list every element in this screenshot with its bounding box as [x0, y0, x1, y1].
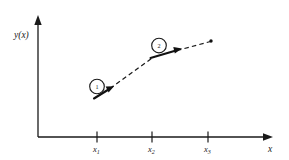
x-axis-label: x [267, 144, 273, 154]
step-marker-2: 2 [152, 38, 167, 53]
dashed-segment-2 [177, 42, 211, 51]
step-marker-1: 1 [90, 79, 105, 94]
slope-arrow-2-head [173, 47, 182, 54]
tick-label-x2-sub: 2 [152, 149, 155, 155]
y-axis [34, 15, 41, 137]
tick-label-x2: x2 [147, 144, 155, 155]
x-tick-labels: x1 x2 x3 [92, 144, 211, 155]
tick-label-x3-sub: 3 [207, 149, 211, 155]
curve-end-dot [209, 39, 212, 42]
tick-label-x3: x3 [203, 144, 211, 155]
step-marker-2-label: 2 [157, 42, 160, 49]
step-marker-1-label: 1 [95, 83, 98, 90]
y-axis-arrowhead [34, 15, 41, 25]
x-axis-arrowhead [263, 133, 273, 140]
ode-step-diagram: 1 2 y(x) x x1 x2 x3 [0, 0, 289, 160]
tick-label-x1: x1 [92, 144, 100, 155]
y-axis-label: y(x) [13, 30, 29, 41]
x-axis [38, 133, 273, 140]
figure-canvas: 1 2 y(x) x x1 x2 x3 [0, 0, 289, 160]
dashed-segment-1 [110, 58, 153, 89]
tick-label-x1-sub: 1 [97, 149, 100, 155]
